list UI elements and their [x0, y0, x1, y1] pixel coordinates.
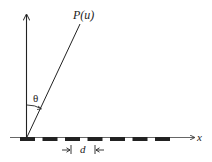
slit: [155, 137, 170, 141]
slit: [20, 137, 35, 141]
slit: [88, 137, 103, 141]
x-axis-label: x: [196, 131, 202, 143]
slit: [110, 137, 125, 141]
slit: [133, 137, 148, 141]
direction-line: [27, 24, 80, 137]
point-label: P(u): [72, 8, 94, 22]
grating-slits: [20, 137, 170, 141]
angle-label: θ: [33, 92, 38, 104]
spacing-label: d: [80, 143, 86, 155]
grating-diagram: x P(u) θ d: [0, 0, 212, 162]
slit: [65, 137, 80, 141]
slit: [43, 137, 58, 141]
